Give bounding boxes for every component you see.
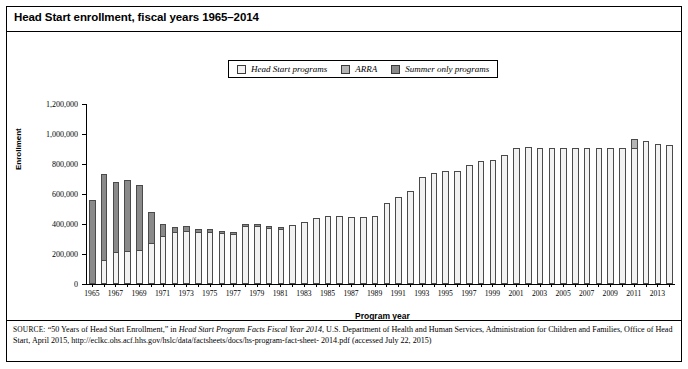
x-tick-mark bbox=[504, 284, 505, 287]
bar-segment-head-start-programs bbox=[124, 251, 131, 284]
x-tick-mark bbox=[363, 284, 364, 287]
bar-segment-head-start-programs bbox=[655, 144, 662, 284]
x-tick-label: 2003 bbox=[532, 289, 547, 298]
x-tick-mark bbox=[410, 284, 411, 287]
x-tick-label: 2009 bbox=[603, 289, 618, 298]
bar-segment-head-start-programs bbox=[254, 226, 261, 284]
x-tick-mark bbox=[492, 284, 493, 287]
x-tick-mark bbox=[563, 284, 564, 287]
x-tick-mark bbox=[481, 284, 482, 287]
bar-1999 bbox=[490, 160, 497, 284]
bar-segment-summer-only-programs bbox=[113, 182, 120, 252]
bar-2009 bbox=[607, 148, 614, 284]
bar-segment-head-start-programs bbox=[313, 218, 320, 284]
x-tick-label: 2007 bbox=[579, 289, 594, 298]
y-tick-label: 1,000,000 bbox=[46, 130, 78, 139]
bar-1987 bbox=[348, 217, 355, 284]
x-tick-mark bbox=[375, 284, 376, 287]
x-tick-mark bbox=[304, 284, 305, 287]
bar-2002 bbox=[525, 147, 532, 284]
x-tick-mark bbox=[398, 284, 399, 287]
bar-1984 bbox=[313, 218, 320, 284]
bar-segment-head-start-programs bbox=[431, 173, 438, 284]
x-tick-mark bbox=[151, 284, 152, 287]
x-tick-mark bbox=[528, 284, 529, 287]
bar-1988 bbox=[360, 217, 367, 284]
bar-1972 bbox=[172, 227, 179, 284]
x-tick-label: 1977 bbox=[226, 289, 241, 298]
bar-1995 bbox=[442, 171, 449, 284]
bar-1969 bbox=[136, 185, 143, 284]
x-tick-mark bbox=[386, 284, 387, 287]
x-tick-label: 2005 bbox=[555, 289, 570, 298]
bar-2006 bbox=[572, 148, 579, 284]
bar-1993 bbox=[419, 177, 426, 284]
x-tick-label: 1975 bbox=[202, 289, 217, 298]
bar-1981 bbox=[278, 227, 285, 284]
bar-segment-head-start-programs bbox=[266, 228, 273, 284]
bar-2007 bbox=[584, 148, 591, 284]
x-tick-label: 1981 bbox=[273, 289, 288, 298]
x-tick-label: 1987 bbox=[343, 289, 358, 298]
y-tick-label: 0 bbox=[74, 280, 78, 289]
bar-1997 bbox=[466, 165, 473, 284]
bar-1990 bbox=[384, 203, 391, 284]
x-tick-mark bbox=[646, 284, 647, 287]
bar-segment-head-start-programs bbox=[442, 171, 449, 284]
bar-1968 bbox=[124, 180, 131, 284]
x-tick-mark bbox=[634, 284, 635, 287]
bar-segment-head-start-programs bbox=[372, 216, 379, 284]
x-tick-mark bbox=[434, 284, 435, 287]
bar-1986 bbox=[336, 216, 343, 284]
bar-segment-head-start-programs bbox=[596, 148, 603, 284]
bar-segment-head-start-programs bbox=[172, 232, 179, 284]
bar-1970 bbox=[148, 212, 155, 284]
source-divider bbox=[6, 320, 682, 321]
plot-area: Enrollment 0200,000400,000600,000800,000… bbox=[0, 0, 688, 369]
bar-1965 bbox=[89, 200, 96, 284]
bar-2000 bbox=[501, 155, 508, 284]
bar-2014 bbox=[666, 145, 673, 284]
y-tick-label: 800,000 bbox=[52, 160, 78, 169]
x-tick-mark bbox=[598, 284, 599, 287]
x-tick-mark bbox=[257, 284, 258, 287]
bar-2012 bbox=[643, 141, 650, 284]
y-tick-label: 200,000 bbox=[52, 250, 78, 259]
bar-segment-head-start-programs bbox=[407, 191, 414, 284]
bar-segment-head-start-programs bbox=[666, 145, 673, 284]
x-tick-mark bbox=[104, 284, 105, 287]
bar-1998 bbox=[478, 161, 485, 284]
bar-segment-head-start-programs bbox=[490, 160, 497, 284]
x-tick-mark bbox=[115, 284, 116, 287]
x-tick-mark bbox=[292, 284, 293, 287]
bar-1974 bbox=[195, 229, 202, 284]
x-tick-mark bbox=[174, 284, 175, 287]
source-line3: 2014.pdf (accessed July 22, 2015) bbox=[321, 336, 432, 345]
x-tick-label: 1985 bbox=[320, 289, 335, 298]
x-tick-label: 1993 bbox=[414, 289, 429, 298]
bar-segment-head-start-programs bbox=[643, 141, 650, 284]
x-tick-label: 2001 bbox=[508, 289, 523, 298]
bar-2005 bbox=[560, 148, 567, 284]
x-tick-label: 1989 bbox=[367, 289, 382, 298]
bar-segment-head-start-programs bbox=[148, 243, 155, 284]
bar-1982 bbox=[289, 225, 296, 284]
bar-2010 bbox=[619, 148, 626, 284]
y-tick-label: 400,000 bbox=[52, 220, 78, 229]
bar-1991 bbox=[395, 197, 402, 284]
bar-segment-head-start-programs bbox=[360, 217, 367, 284]
x-tick-mark bbox=[575, 284, 576, 287]
bar-1971 bbox=[160, 224, 167, 284]
x-tick-mark bbox=[540, 284, 541, 287]
bar-segment-head-start-programs bbox=[419, 177, 426, 284]
bar-segment-head-start-programs bbox=[336, 216, 343, 284]
bar-segment-head-start-programs bbox=[466, 165, 473, 284]
x-tick-mark bbox=[316, 284, 317, 287]
x-axis-ticks: 1965196719691971197319751977197919811983… bbox=[86, 284, 675, 306]
bar-1994 bbox=[431, 173, 438, 284]
x-tick-mark bbox=[269, 284, 270, 287]
bar-2004 bbox=[549, 148, 556, 284]
bar-segment-head-start-programs bbox=[230, 234, 237, 284]
bar-segment-head-start-programs bbox=[136, 250, 143, 285]
bar-segment-head-start-programs bbox=[101, 260, 108, 284]
